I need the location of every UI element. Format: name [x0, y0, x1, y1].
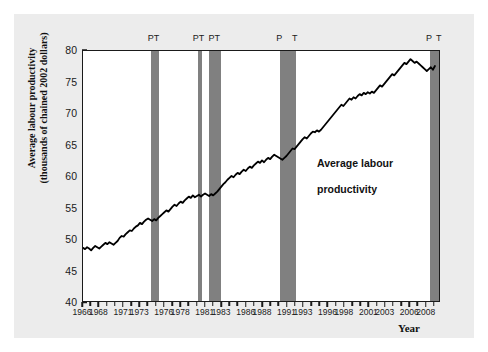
x-tick-mark-minor — [433, 302, 435, 306]
figure-canvas: Average labour productivity (thousands o… — [0, 0, 488, 352]
x-tick-label: 1978 — [171, 307, 190, 317]
x-tick-label: 1983 — [212, 307, 231, 317]
series-annotation: Average labour productivity — [317, 144, 393, 209]
annotation-line2: productivity — [317, 183, 393, 196]
y-axis-tick-labels: 404550556065707580 — [56, 50, 77, 302]
x-tick-mark-minor — [212, 302, 214, 306]
x-tick-mark-minor — [155, 302, 157, 306]
trough-label: T — [436, 33, 442, 43]
x-tick-mark-minor — [319, 302, 321, 306]
x-tick-label: 1968 — [89, 307, 108, 317]
x-tick-label: 2008 — [416, 307, 435, 317]
x-axis-tick-labels: 1966196819711973197619781981198319861988… — [82, 307, 440, 321]
x-tick-label: 1988 — [253, 307, 272, 317]
x-tick-mark-minor — [335, 302, 337, 306]
peak-trough-label: PT — [193, 33, 205, 43]
x-tick-mark-minor — [400, 302, 402, 306]
x-tick-mark-minor — [130, 302, 132, 306]
x-tick-mark-minor — [269, 302, 271, 306]
y-tick-label: 65 — [65, 139, 77, 151]
x-tick-mark-minor — [392, 302, 394, 306]
x-tick-mark-minor — [114, 302, 116, 306]
x-tick-mark-minor — [89, 302, 91, 306]
y-tick-label: 55 — [65, 202, 77, 214]
x-tick-mark-minor — [351, 302, 353, 306]
x-tick-mark-minor — [171, 302, 173, 306]
x-tick-label: 2003 — [375, 307, 394, 317]
annotation-line1: Average labour — [317, 157, 393, 170]
peak-trough-markers: PTPTPTPTPT — [82, 33, 440, 47]
peak-trough-label: PT — [208, 33, 220, 43]
x-tick-mark-minor — [359, 302, 361, 306]
y-tick-label: 50 — [65, 233, 77, 245]
x-axis-title: Year — [398, 322, 420, 334]
x-tick-label: 1973 — [130, 307, 149, 317]
y-axis-title-line2: (thousands of chained 2002 dollars) — [38, 0, 50, 233]
x-tick-mark-minor — [106, 302, 108, 306]
x-tick-mark-minor — [237, 302, 239, 306]
y-tick-label: 80 — [65, 44, 77, 56]
peak-trough-label: PT — [148, 33, 160, 43]
y-tick-label: 75 — [65, 76, 77, 88]
trough-label: T — [292, 33, 298, 43]
x-tick-mark-minor — [278, 302, 280, 306]
x-tick-mark-minor — [376, 302, 378, 306]
y-axis-title-line1: Average labour productivity — [26, 0, 38, 233]
x-tick-mark-minor — [294, 302, 296, 306]
x-tick-mark-minor — [310, 302, 312, 306]
y-tick-label: 45 — [65, 265, 77, 277]
peak-label: P — [426, 33, 432, 43]
x-tick-label: 1998 — [334, 307, 353, 317]
x-tick-mark-minor — [188, 302, 190, 306]
y-tick-label: 60 — [65, 170, 77, 182]
x-tick-label: 1993 — [293, 307, 312, 317]
y-axis-title: Average labour productivity (thousands o… — [26, 0, 50, 233]
x-tick-mark-minor — [229, 302, 231, 306]
y-tick-label: 70 — [65, 107, 77, 119]
x-tick-mark-minor — [417, 302, 419, 306]
x-tick-mark-minor — [147, 302, 149, 306]
x-tick-mark-minor — [253, 302, 255, 306]
peak-label: P — [276, 33, 282, 43]
x-tick-mark-minor — [196, 302, 198, 306]
